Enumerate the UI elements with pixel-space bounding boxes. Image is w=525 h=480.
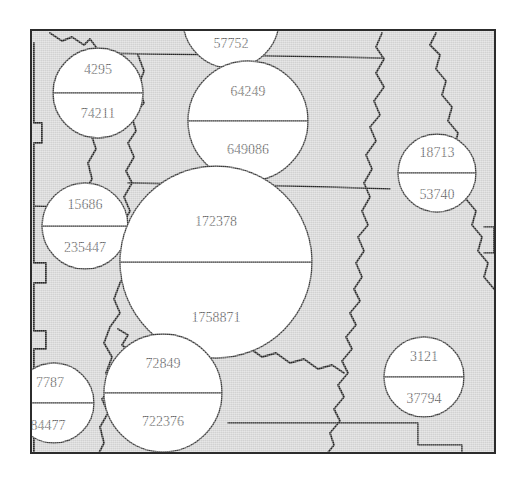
symbol-circle-top-clipped[interactable]: 57752 [183, 31, 279, 68]
symbol-label-south-central-lower: 722376 [142, 414, 184, 429]
symbol-circle-north-central[interactable]: 64249 649086 [188, 61, 308, 181]
symbol-label-top-clipped-upper: 57752 [214, 36, 249, 51]
symbol-label-north-central-upper: 64249 [231, 84, 266, 99]
symbol-label-northeast-upper: 18713 [420, 145, 455, 160]
map-frame: 57752 4295 74211 64249 649086 18713 [30, 29, 496, 454]
symbol-circle-west[interactable]: 15686 235447 [42, 183, 128, 269]
symbol-circle-southwest[interactable]: 7787 84477 [32, 363, 94, 443]
symbol-label-west-lower: 235447 [64, 240, 106, 255]
symbol-label-northeast-lower: 53740 [420, 187, 455, 202]
symbol-circle-center[interactable]: 172378 1758871 [120, 166, 312, 358]
symbol-label-center-upper: 172378 [195, 214, 237, 229]
symbol-label-northwest-lower: 74211 [81, 106, 115, 121]
symbol-circle-south-central[interactable]: 72849 722376 [104, 334, 222, 452]
symbol-label-west-upper: 15686 [68, 197, 103, 212]
symbol-circle-southeast[interactable]: 3121 37794 [384, 337, 464, 417]
symbol-label-center-lower: 1758871 [192, 310, 241, 325]
symbol-circle-northeast[interactable]: 18713 53740 [398, 134, 476, 212]
symbol-label-southeast-lower: 37794 [407, 391, 442, 406]
symbol-label-northwest-upper: 4295 [84, 62, 112, 77]
symbol-label-southwest-lower: 84477 [32, 418, 66, 433]
symbol-label-southeast-upper: 3121 [410, 349, 438, 364]
symbol-label-southwest-upper: 7787 [36, 375, 64, 390]
symbol-circle-northwest[interactable]: 4295 74211 [53, 48, 143, 138]
map-page: 57752 4295 74211 64249 649086 18713 [0, 0, 525, 480]
symbol-label-north-central-lower: 649086 [227, 142, 269, 157]
symbol-layer: 57752 4295 74211 64249 649086 18713 [32, 31, 496, 454]
symbol-label-south-central-upper: 72849 [146, 356, 181, 371]
